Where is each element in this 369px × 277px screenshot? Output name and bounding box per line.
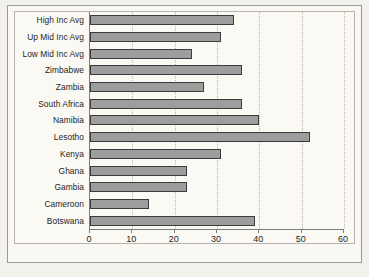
bar <box>90 65 242 75</box>
axis-tick <box>174 230 175 233</box>
axis-tick-label: 50 <box>296 234 306 244</box>
chart-screenshot: High Inc AvgUp Mid Inc AvgLow Mid Inc Av… <box>0 0 369 277</box>
bar <box>90 99 242 109</box>
bar <box>90 149 221 159</box>
axis-tick <box>258 230 259 233</box>
gridline <box>344 12 345 229</box>
bar <box>90 166 187 176</box>
axis-tick-label: 60 <box>338 234 348 244</box>
category-label: Cameroon <box>7 196 89 213</box>
axis-tick <box>89 230 90 233</box>
bar-row <box>90 196 344 213</box>
bar <box>90 132 310 142</box>
axis-tick-label: 10 <box>126 234 136 244</box>
category-label: South Africa <box>7 95 89 112</box>
category-label: Gambia <box>7 179 89 196</box>
bar-row <box>90 146 344 163</box>
value-axis: 0102030405060 <box>89 230 344 250</box>
bar-row <box>90 29 344 46</box>
axis-tick-label: 20 <box>169 234 179 244</box>
plot-area <box>89 12 344 230</box>
category-label: Zambia <box>7 79 89 96</box>
bar-series <box>90 12 344 229</box>
axis-tick-label: 0 <box>86 234 91 244</box>
bar-row <box>90 112 344 129</box>
axis-tick-label: 40 <box>253 234 263 244</box>
bar-row <box>90 45 344 62</box>
category-label: Kenya <box>7 146 89 163</box>
category-label: Lesotho <box>7 129 89 146</box>
bar <box>90 199 149 209</box>
category-label: Zimbabwe <box>7 62 89 79</box>
bar-row <box>90 95 344 112</box>
category-label: Namibia <box>7 112 89 129</box>
bar-row <box>90 129 344 146</box>
category-label: Up Mid Inc Avg <box>7 29 89 46</box>
bar <box>90 115 259 125</box>
bar-row <box>90 62 344 79</box>
bar <box>90 32 221 42</box>
axis-tick <box>301 230 302 233</box>
category-axis: High Inc AvgUp Mid Inc AvgLow Mid Inc Av… <box>7 12 89 229</box>
category-label: Botswana <box>7 212 89 229</box>
axis-tick <box>343 230 344 233</box>
axis-tick <box>131 230 132 233</box>
category-label: Low Mid Inc Avg <box>7 45 89 62</box>
bar <box>90 82 204 92</box>
bar-row <box>90 12 344 29</box>
bar <box>90 182 187 192</box>
bar <box>90 15 234 25</box>
axis-tick-label: 30 <box>211 234 221 244</box>
bar <box>90 216 255 226</box>
category-label: High Inc Avg <box>7 12 89 29</box>
bar-row <box>90 212 344 229</box>
bar-row <box>90 179 344 196</box>
axis-tick <box>216 230 217 233</box>
category-label: Ghana <box>7 162 89 179</box>
horizontal-bar-chart: High Inc AvgUp Mid Inc AvgLow Mid Inc Av… <box>7 6 354 252</box>
bar-row <box>90 162 344 179</box>
bar-row <box>90 79 344 96</box>
bar <box>90 49 192 59</box>
